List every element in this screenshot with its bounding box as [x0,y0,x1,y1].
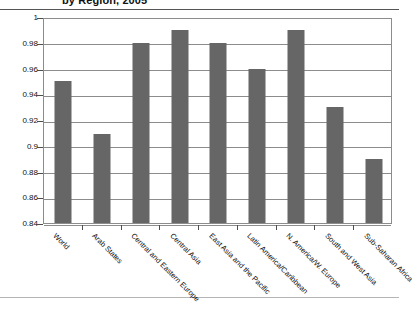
bar[interactable] [210,43,227,223]
y-axis-tick-label: 0.92 [4,117,38,125]
bar[interactable] [365,159,382,223]
y-axis-tick-label: 0.88 [4,169,38,177]
bar[interactable] [132,43,149,223]
bar-slot [83,19,122,223]
x-axis-tick-mark [237,225,238,230]
y-axis-tick-label: 0.98 [4,40,38,48]
y-axis-tick-mark [37,70,43,71]
x-axis-tick-mark [276,225,277,230]
bar-slot [122,19,161,223]
y-axis-tick-mark [37,44,43,45]
bar-slot [160,19,199,223]
y-axis-tick-mark [37,121,43,122]
header-divider [0,9,399,10]
bar-slot [238,19,277,223]
x-axis-tick-mark [159,225,160,230]
y-axis-tick-label: 0.96 [4,66,38,74]
y-axis-tick-mark [37,198,43,199]
y-axis-tick-mark [37,18,43,19]
bar[interactable] [288,30,305,223]
y-axis-tick-mark [37,224,43,225]
y-axis-tick-mark [37,95,43,96]
x-axis-tick-mark [121,225,122,230]
bar-slot [354,19,393,223]
x-axis-tick-label: Arab States [90,232,123,265]
x-axis-tick-mark [314,225,315,230]
bar[interactable] [94,134,111,223]
gridline [44,225,391,226]
y-axis-tick-label: 0.86 [4,194,38,202]
x-axis-tick-mark [82,225,83,230]
bar-series [44,19,391,223]
y-axis-tick-mark [37,173,43,174]
x-axis-tick-label: World [52,232,71,251]
y-axis-tick-label: 0.94 [4,91,38,99]
y-axis-tick-mark [37,147,43,148]
x-axis-tick-mark [198,225,199,230]
bar[interactable] [171,30,188,223]
bar-slot [315,19,354,223]
bar[interactable] [326,107,343,223]
plot-area [43,18,392,224]
bar-slot [277,19,316,223]
chart-title: by Region, 2005 [62,0,147,6]
y-axis-tick-label: 1 [4,14,38,22]
x-axis-tick-label: Central and Eastern Europe [129,232,200,303]
bar[interactable] [55,81,72,223]
x-axis-tick-label: Central Asia [168,232,202,266]
bar[interactable] [249,69,266,224]
bar-slot [44,19,83,223]
y-axis-tick-label: 0.84 [4,220,38,228]
bar-slot [199,19,238,223]
x-axis-tick-mark [353,225,354,230]
y-axis-tick-label: 0.9 [4,143,38,151]
